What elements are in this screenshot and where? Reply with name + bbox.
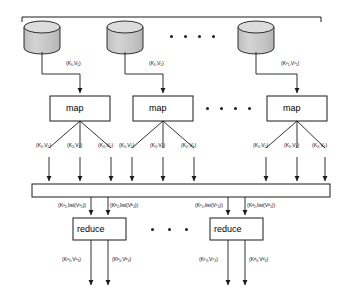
reduce-output-arrows: [91, 240, 245, 285]
intermediate-label-1: (K₂,V₂): [36, 142, 51, 148]
output-label-2: (Kᵇ₃,Vᵇ₃): [112, 256, 131, 262]
map-box-2-label: map: [149, 103, 167, 113]
reduce-box-1-label: reduce: [77, 224, 105, 234]
input-bracket: [22, 17, 321, 22]
intermediate-label-5: (K₂,V₂): [150, 142, 165, 148]
intermediate-label-4: (K₂,V₂): [119, 142, 134, 148]
map-box-1-label: map: [66, 103, 84, 113]
grouped-label-4: (Kᵈ₂,list(Vᵈ₂)): [247, 202, 275, 208]
intermediate-label-7: (K₂,V₂): [253, 142, 268, 148]
input-split-n: [238, 21, 274, 54]
intermediate-label-8: (K₂,V₂): [284, 142, 299, 148]
input-split-2: [107, 21, 143, 54]
intermediate-arrows: [49, 157, 325, 181]
intermediate-label-9: (K₂,V₂): [312, 142, 327, 148]
output-label-3: (Kᶜ₃,Vᶜ₃): [199, 256, 218, 262]
grouped-label-2: (Kᵇ₂,list(Vᵇ₂)): [110, 202, 138, 208]
grouped-label-3: (Kᶜ₂,list(Vᶜ₂)): [195, 202, 223, 208]
output-label-1: (Kᵃ₃,Vᵃ₃): [62, 256, 81, 262]
map-box-3-label: map: [283, 103, 301, 113]
input-label-1: (K₁,V₁): [66, 60, 81, 66]
input-label-2: (K₁,V₁): [149, 60, 164, 66]
shuffle-and-sort-bar: [32, 184, 330, 197]
output-label-4: (Kᵈ₃,Vᵈ₃): [249, 256, 268, 262]
reduce-box-2-label: reduce: [214, 224, 242, 234]
grouped-label-1: (Kᵃ₂,list(Vᵃ₂)): [58, 202, 86, 208]
input-split-1: [24, 21, 60, 54]
intermediate-label-3: (K₂,V₂): [98, 142, 113, 148]
intermediate-label-6: (K₂,V₂): [181, 142, 196, 148]
input-label-3: (Kⁿ₁,Vⁿ₁): [281, 60, 299, 66]
input-to-map-connectors: [42, 52, 297, 93]
intermediate-label-2: (K₂,V₂): [67, 142, 82, 148]
